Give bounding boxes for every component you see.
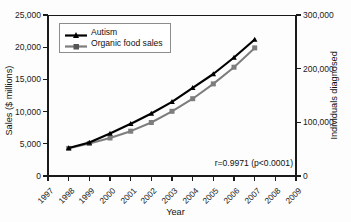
y-axis-right-title: Individuals diagnosed (330, 62, 339, 140)
y-left-tick-20000: 20,000 (0, 43, 41, 52)
chart-legend: Autism Organic food sales (59, 23, 171, 53)
y-left-tick-0: 0 (0, 172, 41, 181)
x-axis-title: Year (0, 208, 351, 217)
legend-label-organic-food-sales: Organic food sales (91, 39, 163, 48)
series-autism (66, 37, 258, 151)
chart-figure: 25,000 20,000 15,000 10,000 5,000 0 300,… (0, 0, 351, 222)
y-right-tick-300000: 300,000 (303, 11, 334, 20)
y-right-tick-0: 0 (303, 172, 308, 181)
y-left-tick-5000: 5,000 (0, 140, 41, 149)
x-axis-ticks (48, 176, 296, 181)
y-axis-left-title: Sales ($ millions) (5, 64, 14, 138)
correlation-annotation: r=0.9971 (p<0.0001) (215, 159, 293, 168)
y-axis-left-ticks (43, 15, 48, 176)
legend-label-autism: Autism (91, 28, 117, 37)
legend-marker-square-icon (65, 38, 87, 49)
legend-marker-triangle-icon (65, 27, 87, 38)
legend-item-organic-food-sales: Organic food sales (65, 38, 163, 49)
chart-screenshot: 25,000 20,000 15,000 10,000 5,000 0 300,… (0, 0, 351, 222)
y-left-tick-25000: 25,000 (0, 11, 41, 20)
legend-item-autism: Autism (65, 27, 163, 38)
y-axis-right-ticks (296, 15, 301, 176)
